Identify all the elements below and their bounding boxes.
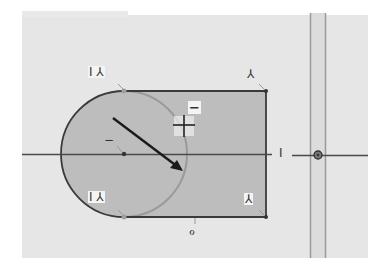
parallel-constraint-glyph[interactable]: ℴ [188,224,196,237]
tangent-point-top[interactable] [122,89,127,94]
tangent-point-bottom[interactable] [122,215,127,220]
cursor-minus-badge: − [188,101,201,114]
center-horizontal-glyph[interactable]: − [103,134,115,146]
horizontal-constraint-glyph[interactable]: I [278,147,284,159]
perpendicular-constraint-top-glyph[interactable]: ⅄ [246,68,255,80]
vertical-reference-band[interactable] [310,13,326,258]
tangent-constraint-bottom-glyph[interactable]: I ⅄ [88,191,105,203]
circle-center-point[interactable] [122,152,126,156]
perpendicular-constraint-bottom-glyph[interactable]: ⅄ [244,193,253,205]
sketch-canvas[interactable]: I ⅄ I ⅄ ⅄ ⅄ I ℴ − − [0,0,389,273]
origin-point[interactable] [314,151,322,159]
crosshair-cursor-icon [173,115,195,137]
tangent-constraint-top-glyph[interactable]: I ⅄ [88,66,105,78]
